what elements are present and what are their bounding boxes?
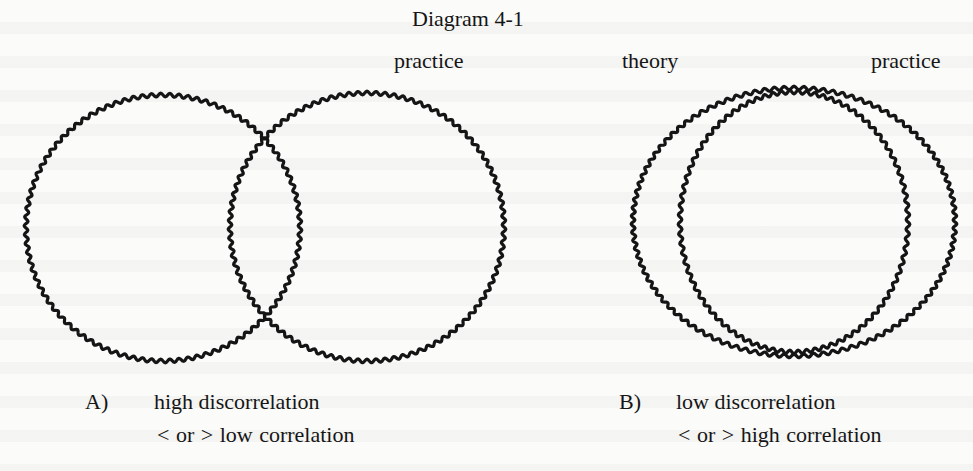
diagram-b [631, 86, 957, 358]
diagram-a-practice-label: practice [394, 50, 464, 72]
diagram-b-caption-line1: low discorrelation [676, 391, 835, 413]
diagram-b-theory-label: theory [622, 50, 678, 72]
diagram-a-caption-line2: < or > low correlation [157, 424, 354, 446]
diagram-b-practice-circle [678, 90, 910, 354]
diagram-a-practice-circle [228, 91, 506, 363]
diagram-a-caption-line1: high discorrelation [154, 391, 320, 413]
diagram-a-theory-circle [24, 93, 302, 363]
diagram-a-marker: A) [85, 391, 108, 413]
diagram-b-practice-label: practice [871, 50, 941, 72]
diagram-a [24, 91, 506, 363]
diagram-b-caption-line2: < or > high correlation [678, 424, 882, 446]
diagram-b-marker: B) [619, 391, 641, 413]
